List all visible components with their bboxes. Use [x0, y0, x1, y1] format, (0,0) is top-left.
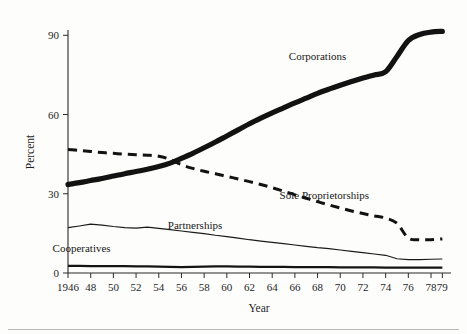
y-axis-title: Percent	[24, 134, 36, 169]
x-tick-label: 62	[244, 281, 255, 293]
page-divider-rule	[8, 329, 459, 330]
y-tick-label: 90	[48, 29, 60, 41]
x-tick-label: 70	[335, 281, 347, 293]
line-chart-canvas: 0306090 19464850525456586062646668707274…	[0, 0, 467, 334]
x-tick-label: 56	[176, 281, 188, 293]
x-tick-label: 78	[426, 281, 438, 293]
x-tick-label: 68	[312, 281, 324, 293]
x-tick-label: 1946	[57, 281, 80, 293]
series-line-corporations	[68, 31, 442, 184]
series-label-sole-proprietorships: Sole Proprietorships	[280, 189, 370, 201]
x-tick-label: 58	[199, 281, 211, 293]
y-tick-label: 30	[48, 188, 60, 200]
y-tick-label: 0	[54, 267, 60, 279]
series-line-partnerships	[68, 224, 442, 259]
x-axis-title: Year	[248, 302, 269, 314]
x-tick-label: 74	[380, 281, 392, 293]
x-tick-label: 60	[221, 281, 233, 293]
series-line-cooperatives	[68, 266, 442, 268]
x-tick-label: 79	[437, 281, 449, 293]
x-axis-ticks: 19464850525456586062646668707274767879	[57, 273, 448, 293]
data-series-group	[68, 31, 442, 267]
series-label-cooperatives: Cooperatives	[53, 242, 111, 254]
x-tick-label: 52	[131, 281, 142, 293]
series-label-corporations: Corporations	[289, 50, 346, 62]
x-tick-label: 76	[403, 281, 415, 293]
x-tick-label: 72	[357, 281, 368, 293]
x-tick-label: 54	[153, 281, 165, 293]
x-tick-label: 50	[108, 281, 120, 293]
x-tick-label: 64	[267, 281, 279, 293]
series-line-sole-proprietorships	[68, 149, 442, 239]
x-tick-label: 48	[85, 281, 97, 293]
x-tick-label: 66	[289, 281, 301, 293]
series-label-partnerships: Partnerships	[168, 219, 222, 231]
y-tick-label: 60	[48, 109, 60, 121]
axes	[68, 30, 451, 273]
chart-figure: 0306090 19464850525456586062646668707274…	[0, 0, 467, 334]
